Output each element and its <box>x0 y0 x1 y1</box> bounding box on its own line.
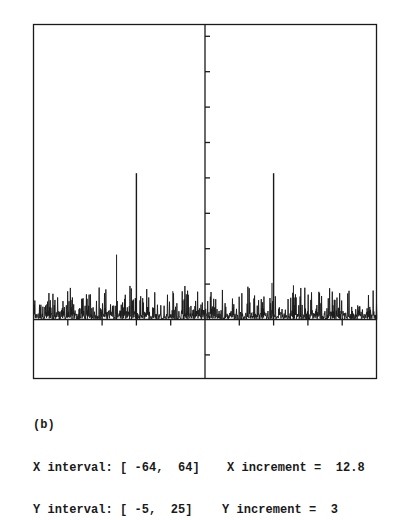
x-increment-text: X increment = 12.8 <box>227 461 365 475</box>
x-info-row: X interval: [ -64, 64]X increment = 12.8 <box>33 461 365 476</box>
figure-caption: (b) X interval: [ -64, 64]X increment = … <box>33 390 365 520</box>
x-interval-text: X interval: [ -64, 64] <box>33 461 227 475</box>
plot-area <box>0 0 397 390</box>
y-interval-text: Y interval: [ -5, 25] <box>33 503 222 517</box>
figure-label: (b) <box>33 418 365 433</box>
axes <box>34 25 377 379</box>
y-increment-text: Y increment = 3 <box>222 503 338 517</box>
y-info-row: Y interval: [ -5, 25]Y increment = 3 <box>33 503 365 518</box>
